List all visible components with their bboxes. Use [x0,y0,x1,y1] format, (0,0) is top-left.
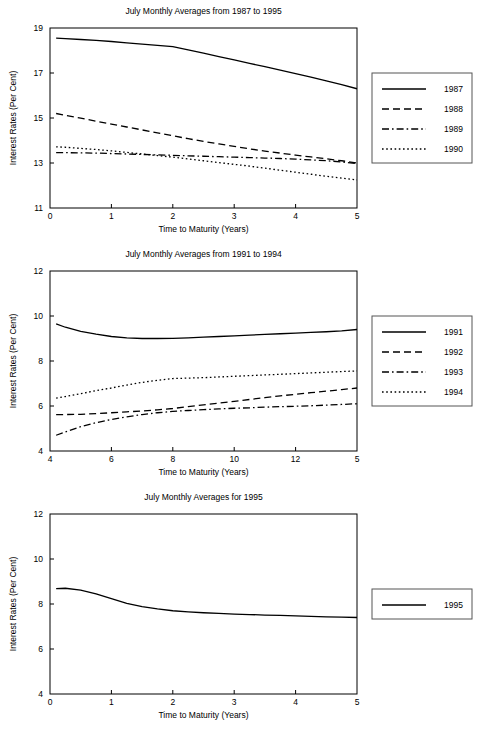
chart-title: July Monthly Averages from 1991 to 1994 [125,249,282,259]
legend-label-1990: 1990 [444,144,463,154]
plot-frame [50,28,357,208]
x-tick-label: 3 [232,697,237,707]
chart-panel-2: July Monthly Averages from 1991 to 19944… [0,243,482,486]
y-tick-label: 8 [38,356,43,366]
x-tick-label: 5 [355,211,360,221]
x-axis-ticks: 012345 [48,204,360,221]
series-line-1992 [56,388,357,415]
y-tick-label: 4 [38,446,43,456]
x-tick-label: 8 [170,454,175,464]
y-tick-label: 13 [34,158,44,168]
y-tick-label: 12 [34,509,44,519]
chart-panel-3: July Monthly Averages for 19950123454681… [0,486,482,729]
legend-label-1992: 1992 [444,347,463,357]
x-tick-label: 4 [293,697,298,707]
legend-label-1988: 1988 [444,104,463,114]
series-line-1989 [56,153,357,164]
y-tick-label: 11 [34,203,43,213]
legend-label-1993: 1993 [444,367,463,377]
x-tick-label: 0 [48,211,53,221]
y-axis-ticks: 4681012 [34,266,54,456]
series-group [56,38,357,180]
series-group [56,324,357,435]
x-axis-ticks: 012345 [48,690,360,707]
x-tick-label: 3 [232,211,237,221]
y-tick-label: 6 [38,401,43,411]
x-tick-label: 2 [170,697,175,707]
chart-2: July Monthly Averages from 1991 to 19944… [0,243,482,486]
legend-label-1994: 1994 [444,387,463,397]
chart-title: July Monthly Averages from 1987 to 1995 [125,6,282,16]
legend-label-1987: 1987 [444,84,463,94]
chart-panel-1: July Monthly Averages from 1987 to 19950… [0,0,482,243]
x-tick-label: 1 [109,697,114,707]
figure-page: July Monthly Averages from 1987 to 19950… [0,0,482,729]
y-axis-label: Interest Rates (Per Cent) [8,71,18,166]
plot-frame [50,271,357,451]
y-tick-label: 12 [34,266,44,276]
x-axis-label: Time to Maturity (Years) [158,467,248,477]
legend: 1995 [372,589,472,619]
legend: 1991199219931994 [372,316,472,406]
y-tick-label: 8 [38,599,43,609]
legend-label-1995: 1995 [444,600,463,610]
chart-1: July Monthly Averages from 1987 to 19950… [0,0,482,243]
series-line-1993 [56,404,357,436]
x-tick-label: 10 [229,454,239,464]
chart-3: July Monthly Averages for 19950123454681… [0,486,482,729]
x-tick-label: 12 [291,454,301,464]
series-line-1994 [56,371,357,398]
y-tick-label: 10 [34,554,44,564]
x-axis-label: Time to Maturity (Years) [158,710,248,720]
y-tick-label: 6 [38,644,43,654]
x-axis-ticks: 46810125 [48,447,360,464]
series-line-1987 [56,38,357,89]
y-tick-label: 19 [34,23,44,33]
series-line-1995 [56,588,357,617]
series-group [56,588,357,617]
x-tick-label: 5 [355,454,360,464]
y-axis-ticks: 1113151719 [34,23,54,213]
series-line-1991 [56,324,357,339]
series-line-1988 [56,114,357,164]
y-axis-ticks: 4681012 [34,509,54,699]
x-tick-label: 4 [293,211,298,221]
y-tick-label: 15 [34,113,44,123]
x-tick-label: 1 [109,211,114,221]
y-axis-label: Interest Rates (Per Cent) [8,314,18,409]
chart-title: July Monthly Averages for 1995 [144,492,263,502]
series-line-1990 [56,147,357,180]
x-tick-label: 2 [170,211,175,221]
plot-frame [50,514,357,694]
y-axis-label: Interest Rates (Per Cent) [8,557,18,652]
legend-label-1989: 1989 [444,124,463,134]
x-tick-label: 4 [48,454,53,464]
x-tick-label: 6 [109,454,114,464]
y-tick-label: 10 [34,311,44,321]
x-tick-label: 0 [48,697,53,707]
legend-label-1991: 1991 [444,327,463,337]
legend: 1987198819891990 [372,73,472,163]
x-tick-label: 5 [355,697,360,707]
y-tick-label: 4 [38,689,43,699]
x-axis-label: Time to Maturity (Years) [158,224,248,234]
y-tick-label: 17 [34,68,44,78]
